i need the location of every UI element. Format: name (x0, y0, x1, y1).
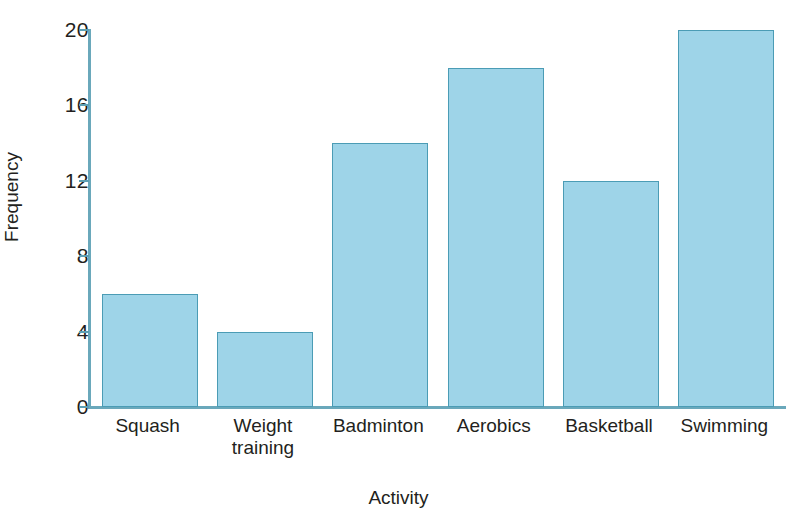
y-tick-mark (79, 180, 89, 182)
bar-squash (102, 294, 198, 407)
x-label-line: Basketball (565, 415, 653, 436)
y-tick-mark (79, 104, 89, 106)
bar-basketball (563, 181, 659, 407)
bar-chart-figure: 048121620 SquashWeighttrainingBadmintonA… (0, 0, 797, 524)
x-label-line: Swimming (681, 415, 769, 436)
x-label-aerobics: Aerobics (436, 415, 551, 437)
x-label-line: Aerobics (457, 415, 531, 436)
bar-badminton (332, 143, 428, 407)
x-label-basketball: Basketball (551, 415, 666, 437)
y-tick-mark (79, 29, 89, 31)
y-tick-mark (79, 255, 89, 257)
x-axis-title: Activity (0, 487, 797, 509)
y-tick-mark (79, 331, 89, 333)
x-label-line: training (205, 437, 320, 459)
x-label-badminton: Badminton (321, 415, 436, 437)
bar-weight-training (217, 332, 313, 407)
y-tick-mark (79, 406, 89, 408)
x-label-swimming: Swimming (667, 415, 782, 437)
x-label-weight-training: Weighttraining (205, 415, 320, 459)
plot-area (90, 30, 782, 407)
bar-swimming (678, 30, 774, 407)
bar-aerobics (448, 68, 544, 407)
x-label-line: Badminton (333, 415, 424, 436)
x-label-line: Weight (234, 415, 293, 436)
x-label-squash: Squash (90, 415, 205, 437)
y-axis-title: Frequency (1, 107, 23, 287)
x-label-line: Squash (115, 415, 179, 436)
